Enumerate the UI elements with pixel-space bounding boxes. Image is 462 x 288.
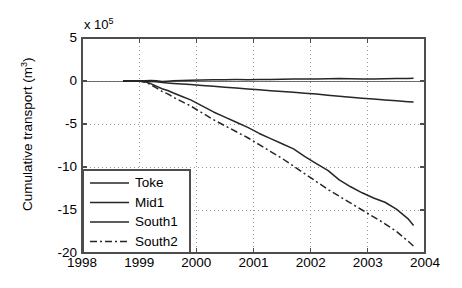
x-tick-label: 1998	[52, 256, 112, 270]
legend-label-toke: Toke	[135, 176, 164, 190]
legend-label-south2: South2	[135, 235, 178, 249]
plot-svg	[0, 0, 462, 288]
x-tick-label: 1999	[109, 256, 169, 270]
figure-canvas: Cumulative transport (m3) x 105 50-5-10-…	[0, 0, 462, 288]
x-tick-label: 2001	[224, 256, 284, 270]
x-tick-label: 2003	[338, 256, 398, 270]
x-tick-label: 2000	[166, 256, 226, 270]
x-tick-label: 2004	[395, 256, 455, 270]
legend-label-mid1: Mid1	[135, 196, 164, 210]
x-tick-label: 2002	[281, 256, 341, 270]
legend-label-south1: South1	[135, 215, 178, 229]
